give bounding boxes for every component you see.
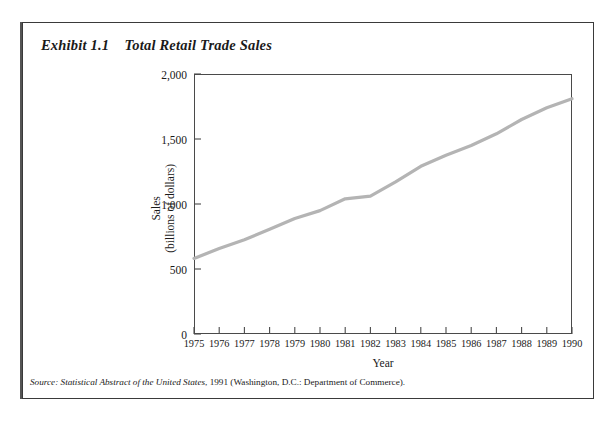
source-note: Source: Statistical Abstract of the Unit… (30, 377, 405, 388)
x-axis-ticks (194, 327, 572, 334)
x-tick-label-1987: 1987 (486, 339, 507, 349)
x-tick-label-1983: 1983 (385, 339, 406, 349)
data-series-line (194, 99, 572, 259)
x-tick-label-1976: 1976 (209, 339, 230, 349)
x-tick-label-1989: 1989 (537, 339, 558, 349)
y-axis-title-line1: Sales (150, 196, 162, 220)
x-tick-label-1988: 1988 (511, 339, 532, 349)
chart-area: 2,000 1,500 1,000 500 0 Sales (billions … (23, 23, 595, 400)
x-tick-label-1978: 1978 (259, 339, 280, 349)
x-tick-label-1980: 1980 (310, 339, 331, 349)
y-tick-label-500: 500 (135, 265, 187, 277)
x-tick-label-1977: 1977 (234, 339, 255, 349)
x-tick-label-1985: 1985 (436, 339, 457, 349)
x-axis-tick-labels: 1975197619771978197919801981198219831984… (194, 339, 572, 355)
y-tick-label-2000: 2,000 (135, 70, 187, 82)
x-tick-label-1975: 1975 (184, 339, 205, 349)
source-details: , 1991 (Washington, D.C.: Department of … (205, 377, 405, 387)
x-tick-label-1990: 1990 (562, 339, 583, 349)
x-tick-label-1979: 1979 (285, 339, 306, 349)
x-tick-label-1986: 1986 (461, 339, 482, 349)
x-tick-label-1981: 1981 (335, 339, 356, 349)
exhibit-frame: Exhibit 1.1 Total Retail Trade Sales 2,0… (22, 22, 594, 399)
plot-svg (194, 74, 572, 334)
y-tick-label-0: 0 (135, 330, 187, 342)
source-label: Source: (30, 377, 58, 387)
x-tick-label-1984: 1984 (411, 339, 432, 349)
y-axis-title-line2: (billions of dollars) (164, 164, 176, 253)
source-publication: Statistical Abstract of the United State… (58, 377, 205, 387)
x-tick-label-1982: 1982 (360, 339, 381, 349)
x-axis-title: Year (194, 357, 572, 369)
y-tick-label-1500: 1,500 (135, 135, 187, 147)
y-axis-ticks (194, 74, 201, 334)
